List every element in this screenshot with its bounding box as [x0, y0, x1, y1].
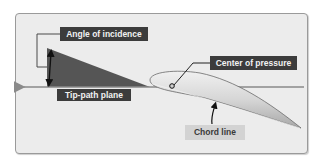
- diagram-canvas: [0, 0, 322, 163]
- chord-line-arrow-icon: [212, 105, 215, 124]
- airfoil: [150, 71, 301, 128]
- chord-line-label: Chord line: [185, 125, 245, 140]
- tip-path-plane-label: Tip-path plane: [57, 89, 131, 101]
- center-of-pressure-label: Center of pressure: [210, 56, 297, 70]
- angle-wedge: [47, 48, 150, 87]
- angle-of-incidence-label: Angle of incidence: [60, 27, 148, 41]
